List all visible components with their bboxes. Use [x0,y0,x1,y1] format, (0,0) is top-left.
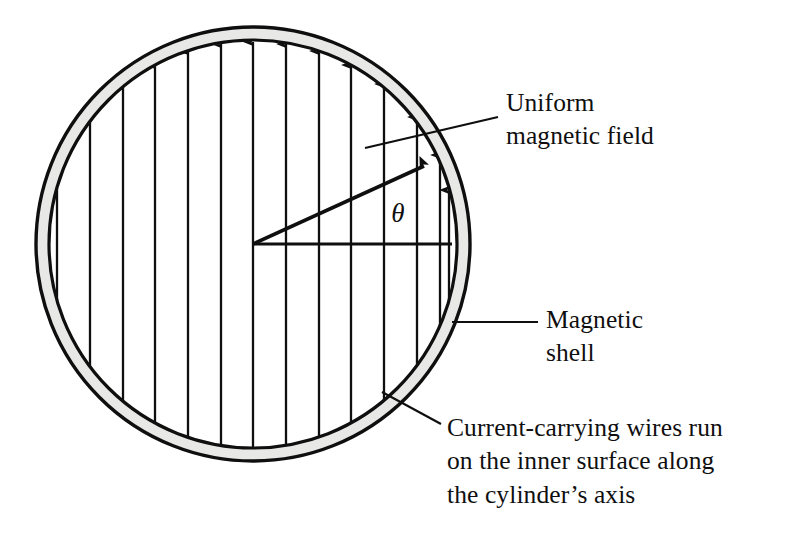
uniform-field-arrows [57,42,449,450]
callout-current-carrying-wires: Current-carrying wires run on the inner … [447,411,723,511]
angle-theta-wedge [253,166,452,244]
callout-magnetic-shell: Magnetic shell [546,303,643,370]
theta-label: θ [391,198,404,228]
callout-uniform-magnetic-field: Uniform magnetic field [506,86,654,153]
figure-canvas: θ Uniform magnetic field Magnetic shell … [0,0,807,534]
